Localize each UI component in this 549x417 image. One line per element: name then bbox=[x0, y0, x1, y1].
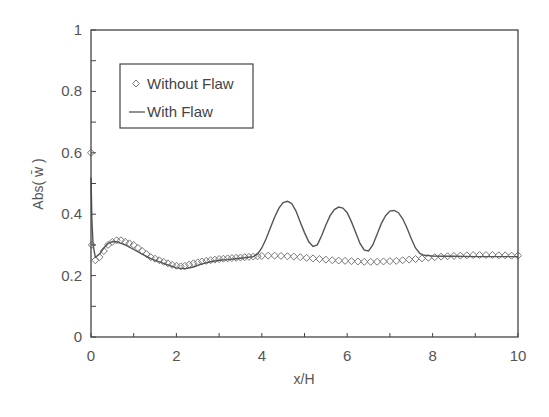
y-tick-label: 0.2 bbox=[61, 267, 82, 284]
y-axis-label: Abs( w̄ ) bbox=[30, 158, 46, 209]
diamond-marker-icon bbox=[284, 253, 291, 260]
y-tick-label: 0.8 bbox=[61, 82, 82, 99]
y-tick-label: 0.6 bbox=[61, 144, 82, 161]
y-tick-label: 0 bbox=[74, 328, 82, 345]
diamond-marker-icon bbox=[463, 252, 470, 259]
diamond-marker-icon bbox=[431, 254, 438, 261]
diamond-marker-icon bbox=[297, 254, 304, 261]
diamond-marker-icon bbox=[412, 256, 419, 263]
diamond-marker-icon bbox=[290, 253, 297, 260]
diamond-marker-icon bbox=[335, 257, 342, 264]
diamond-marker-icon bbox=[329, 257, 336, 264]
diamond-marker-icon bbox=[406, 256, 413, 263]
x-tick-label: 4 bbox=[258, 347, 266, 364]
diamond-marker-icon bbox=[393, 257, 400, 264]
y-tick-label: 1 bbox=[74, 21, 82, 38]
legend-label-without-flaw: Without Flaw bbox=[147, 75, 234, 92]
legend-label-with-flaw: With Flaw bbox=[147, 103, 213, 120]
series-markers-without-flaw bbox=[88, 149, 522, 270]
diamond-marker-icon bbox=[348, 258, 355, 265]
diamond-marker-icon bbox=[342, 257, 349, 264]
diamond-marker-icon bbox=[399, 257, 406, 264]
x-tick-label: 0 bbox=[87, 347, 95, 364]
diamond-marker-icon bbox=[354, 258, 361, 265]
diamond-marker-icon bbox=[322, 256, 329, 263]
x-tick-label: 10 bbox=[510, 347, 527, 364]
legend: Without Flaw With Flaw bbox=[120, 64, 253, 128]
chart: 024681000.20.40.60.81 x/H Abs( w̄ ) With… bbox=[0, 0, 549, 417]
diamond-marker-icon bbox=[386, 258, 393, 265]
plot-series bbox=[88, 149, 522, 270]
diamond-marker-icon bbox=[303, 254, 310, 261]
diamond-marker-icon bbox=[457, 252, 464, 259]
diamond-marker-icon bbox=[316, 256, 323, 263]
x-tick-label: 6 bbox=[343, 347, 351, 364]
x-tick-label: 8 bbox=[428, 347, 436, 364]
diamond-marker-icon bbox=[380, 258, 387, 265]
x-tick-label: 2 bbox=[172, 347, 180, 364]
x-axis-label: x/H bbox=[294, 371, 315, 387]
legend-item-without-flaw: Without Flaw bbox=[133, 75, 234, 92]
diamond-marker-icon bbox=[278, 252, 285, 259]
y-axis-label-text: Abs( w̄ ) bbox=[30, 158, 46, 209]
diamond-marker-icon bbox=[310, 255, 317, 262]
y-tick-label: 0.4 bbox=[61, 205, 82, 222]
